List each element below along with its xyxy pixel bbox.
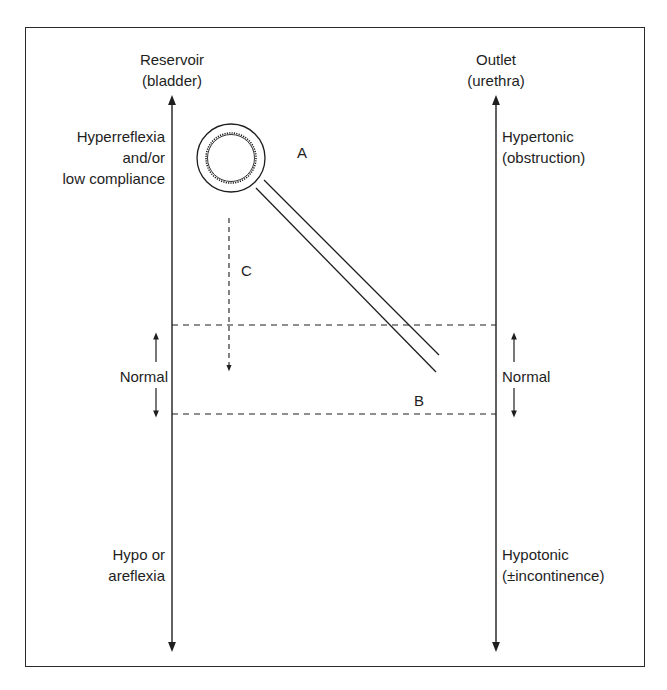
reservoir-normal-label: Normal: [90, 366, 168, 387]
outlet-normal-label: Normal: [502, 366, 550, 387]
outlet-high-label: Hypertonic (obstruction): [502, 126, 585, 168]
marker-c: C: [241, 260, 252, 281]
reservoir-title: Reservoir (bladder): [132, 49, 212, 91]
diagram-canvas: [0, 0, 667, 690]
lever-pointer-icon: [197, 124, 439, 372]
normal-range-lines: [172, 325, 496, 414]
outlet-title: Outlet (urethra): [456, 49, 536, 91]
outlet-low-label: Hypotonic (±incontinence): [502, 544, 604, 586]
reservoir-high-label: Hyperreflexia and/or low compliance: [30, 126, 165, 189]
marker-b: B: [414, 390, 424, 411]
marker-a: A: [297, 142, 307, 163]
reservoir-low-label: Hypo or areflexia: [60, 544, 165, 586]
